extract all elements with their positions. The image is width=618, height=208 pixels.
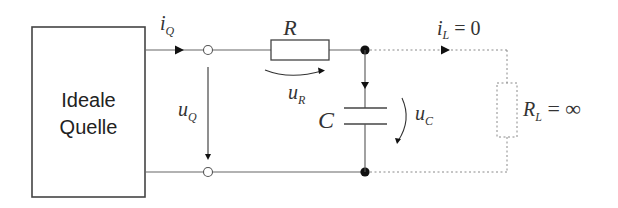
terminal-bottom-icon bbox=[204, 168, 213, 177]
label-uc: uC bbox=[415, 102, 434, 128]
capacitor-c bbox=[344, 50, 387, 172]
label-r: R bbox=[282, 15, 297, 40]
label-iq: iQ bbox=[160, 12, 175, 38]
current-arrow-il-icon bbox=[441, 46, 450, 55]
label-ur: uR bbox=[288, 81, 306, 107]
top-wire bbox=[145, 46, 365, 55]
source-label-line2: Quelle bbox=[60, 116, 118, 138]
label-rl: RL = ∞ bbox=[522, 96, 581, 124]
resistor-r bbox=[271, 40, 329, 60]
source-label-line1: Ideale bbox=[61, 89, 116, 111]
current-arrow-iq-icon bbox=[175, 46, 184, 55]
load-resistor-rl bbox=[497, 83, 517, 137]
label-il: iL = 0 bbox=[437, 17, 481, 42]
voltage-arrow-ur-icon bbox=[265, 70, 322, 75]
voltage-arrow-uc-icon bbox=[398, 98, 406, 141]
load-branch-dashed bbox=[370, 50, 517, 172]
ideal-source-block: Ideale Quelle bbox=[32, 27, 145, 197]
terminal-top-icon bbox=[204, 46, 213, 55]
label-uq: uQ bbox=[178, 98, 197, 124]
current-arrow-capacitor-icon bbox=[361, 82, 369, 89]
label-c: C bbox=[318, 107, 335, 133]
rc-circuit-diagram: Ideale Quelle bbox=[0, 0, 618, 208]
